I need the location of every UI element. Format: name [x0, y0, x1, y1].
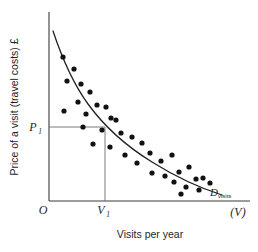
- data-point: [107, 144, 112, 149]
- data-point: [171, 179, 176, 184]
- data-point: [113, 117, 118, 122]
- data-point: [80, 124, 85, 129]
- data-point: [90, 141, 95, 146]
- data-point: [103, 104, 108, 109]
- quantity-tick-label: V: [97, 203, 106, 217]
- data-point: [196, 187, 201, 192]
- data-point: [134, 160, 139, 165]
- data-point: [178, 191, 183, 196]
- scatter-points-group: [60, 54, 212, 196]
- data-point: [71, 66, 76, 71]
- data-point: [162, 173, 167, 178]
- demand-curve-plot: Price of a visit (travel costs) £ Visits…: [0, 0, 258, 252]
- data-point: [118, 130, 123, 135]
- data-point: [78, 81, 83, 86]
- data-point: [61, 108, 66, 113]
- x-axis-variable-label: (V): [230, 205, 245, 219]
- demand-curve-path: [53, 31, 222, 195]
- data-point: [129, 134, 134, 139]
- quantity-tick-subscript: 1: [106, 210, 110, 219]
- data-point: [99, 127, 104, 132]
- data-point: [75, 99, 80, 104]
- data-point: [193, 176, 198, 181]
- data-point: [186, 164, 191, 169]
- demand-curve-label: D: [209, 186, 218, 198]
- chart-figure: Price of a visit (travel costs) £ Visits…: [0, 0, 258, 252]
- data-point: [207, 180, 212, 185]
- data-point: [87, 89, 92, 94]
- data-point: [147, 150, 152, 155]
- data-point: [60, 54, 65, 59]
- origin-label: O: [39, 203, 48, 217]
- data-point: [176, 169, 181, 174]
- x-axis-title: Visits per year: [117, 228, 184, 240]
- data-point: [183, 184, 188, 189]
- data-point: [139, 140, 144, 145]
- data-point: [158, 158, 163, 163]
- data-point: [122, 152, 127, 157]
- price-tick-subscript: 1: [38, 127, 42, 136]
- data-point: [169, 152, 174, 157]
- data-point: [64, 78, 69, 83]
- data-point: [149, 170, 154, 175]
- price-tick-label: P: [28, 120, 37, 134]
- data-point: [108, 115, 113, 120]
- data-point: [83, 111, 88, 116]
- y-axis-title: Price of a visit (travel costs) £: [8, 38, 20, 175]
- data-point: [200, 175, 205, 180]
- demand-curve-label-subscript: visits: [218, 193, 231, 199]
- data-point: [94, 102, 99, 107]
